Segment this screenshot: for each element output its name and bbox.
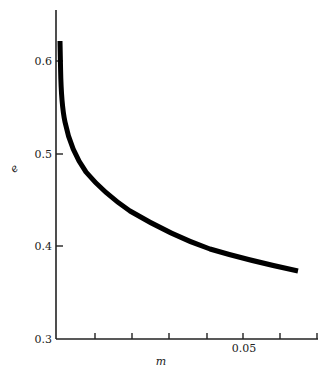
chart-canvas: 0.6 0.5 0.4 0.3 0.05 m e (0, 0, 329, 372)
y-tick-label-0.3: 0.3 (35, 333, 53, 346)
y-tick-label-0.4: 0.4 (35, 240, 53, 253)
y-axis-label: e (8, 161, 22, 175)
x-tick-label-0.05: 0.05 (232, 342, 257, 355)
x-axis-label: m (156, 355, 166, 368)
y-tick-label-0.6: 0.6 (35, 55, 53, 68)
y-tick-label-0.5: 0.5 (35, 148, 53, 161)
x-ticks (95, 333, 317, 339)
data-curve (60, 41, 298, 271)
